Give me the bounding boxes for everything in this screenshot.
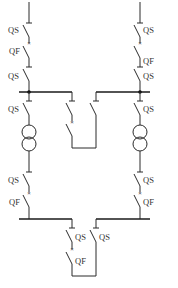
left-qs1-blade bbox=[23, 25, 29, 37]
lower-tie-qs-b-blade bbox=[90, 230, 96, 242]
left-qs4-blade bbox=[23, 174, 29, 186]
right-qs4-label: QS bbox=[143, 175, 154, 185]
right-qf1-label: QF bbox=[143, 56, 154, 66]
left-qs3-label: QS bbox=[8, 104, 19, 114]
right-qs3-blade bbox=[134, 103, 140, 115]
right-transformer-branch: QS QS × QF bbox=[133, 92, 154, 219]
left-qs3-blade bbox=[23, 103, 29, 115]
right-qs2-label: QS bbox=[143, 71, 154, 81]
left-qs2-label: QS bbox=[8, 71, 19, 81]
left-qf2-x-mark: × bbox=[27, 190, 31, 196]
left-transformer-branch: QS QS × QF bbox=[8, 92, 36, 219]
left-qs4-label: QS bbox=[8, 175, 19, 185]
upper-tie-qf-x-mark: × bbox=[70, 119, 74, 125]
left-qf2-label: QF bbox=[9, 197, 20, 207]
right-qs1-label: QS bbox=[143, 25, 154, 35]
left-qs2-blade bbox=[23, 69, 29, 81]
lower-tie-qf-label: QF bbox=[75, 256, 86, 266]
upper-tie-qf-blade bbox=[66, 124, 72, 136]
left-qs1-label: QS bbox=[8, 25, 19, 35]
left-qf1-x-mark: × bbox=[27, 40, 31, 46]
right-qs4-blade bbox=[134, 174, 140, 186]
left-incoming-feeder: QS × QF QS bbox=[8, 2, 32, 92]
lower-tie-qs-a-blade bbox=[66, 230, 72, 242]
lower-tie-qs-b-label: QS bbox=[99, 232, 110, 242]
lower-tie-qs-a-label: QS bbox=[75, 232, 86, 242]
right-qf1-blade bbox=[134, 46, 140, 58]
right-qf2-blade bbox=[134, 195, 140, 207]
lower-tie-qf-blade bbox=[66, 252, 72, 264]
left-qf1-blade bbox=[23, 46, 29, 58]
right-qs1-blade bbox=[134, 25, 140, 37]
upper-tie-qs2-blade bbox=[90, 103, 96, 115]
right-qs2-blade bbox=[134, 69, 140, 81]
lower-tie-qf-x-mark: × bbox=[70, 246, 74, 252]
lower-bus-tie: QS × QF QS bbox=[66, 219, 110, 276]
upper-bus-tie: × bbox=[66, 92, 99, 148]
right-qf2-label: QF bbox=[143, 197, 154, 207]
upper-tie-qs-blade bbox=[66, 103, 72, 115]
right-incoming-feeder: QS × QF QS bbox=[134, 2, 154, 92]
left-qf2-blade bbox=[23, 195, 29, 207]
single-line-diagram: QS × QF QS QS × QF QS × bbox=[0, 0, 178, 288]
right-qs3-label: QS bbox=[143, 104, 154, 114]
right-qf2-x-mark: × bbox=[138, 190, 142, 196]
right-qf1-x-mark: × bbox=[138, 40, 142, 46]
left-qf1-label: QF bbox=[9, 46, 20, 56]
